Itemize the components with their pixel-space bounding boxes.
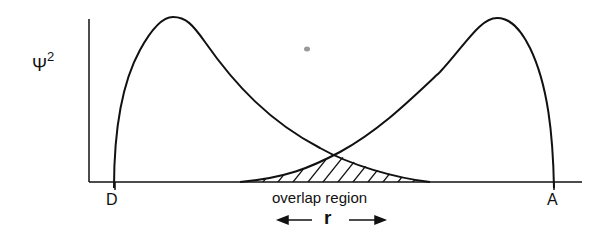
superscript-2: 2 [47, 49, 54, 64]
distance-label: r [324, 207, 331, 229]
stray-dot [304, 47, 310, 52]
psi-symbol: Ψ [32, 55, 47, 75]
y-axis-label: Ψ2 [32, 52, 54, 76]
overlap-hatching [225, 142, 445, 192]
distance-arrows [278, 216, 385, 224]
donor-curve [114, 17, 430, 188]
overlap-region-label: overlap region [272, 189, 367, 206]
acceptor-curve [240, 18, 554, 188]
acceptor-label: A [547, 191, 558, 209]
donor-label: D [106, 191, 118, 209]
